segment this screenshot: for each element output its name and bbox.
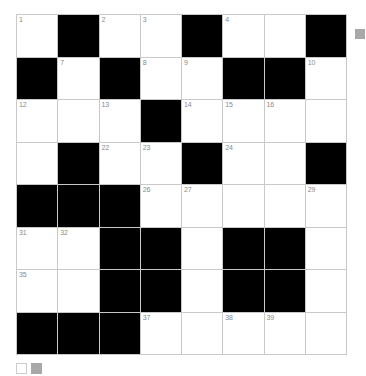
grid-cell-number: 39 [267,313,274,322]
grid-cell-block [223,270,263,312]
grid-cell-open[interactable] [182,270,222,312]
grid-cell-block [58,185,98,227]
grid-cell-block [265,58,305,100]
grid-cell-number: 8 [143,58,147,67]
crossword-grid[interactable]: 1234789101213141516222324262729313235373… [16,14,347,355]
grid-cell-open[interactable]: 23 [141,143,181,185]
grid-cell-open[interactable] [306,270,346,312]
grid-cell-open[interactable]: 9 [182,58,222,100]
grid-cell-number: 4 [225,15,229,24]
grid-cell-open[interactable]: 13 [100,100,140,142]
grid-cell-open[interactable] [265,185,305,227]
grid-cell-block [58,15,98,57]
grid-cell-open[interactable] [223,185,263,227]
grid-cell-block [141,228,181,270]
grid-cell-number: 13 [102,100,109,109]
legend-filled-swatch[interactable] [31,363,42,374]
grid-cell-open[interactable]: 3 [141,15,181,57]
grid-cell-number: 29 [308,185,315,194]
grid-cell-open[interactable] [182,228,222,270]
grid-cell-block [182,143,222,185]
grid-cell-block [223,58,263,100]
grid-cell-open[interactable]: 12 [17,100,57,142]
grid-cell-number: 35 [19,270,26,279]
crossword-page: 1234789101213141516222324262729313235373… [0,0,366,376]
grid-cell-number: 26 [143,185,150,194]
grid-cell-open[interactable]: 14 [182,100,222,142]
grid-cell-open[interactable]: 8 [141,58,181,100]
grid-cell-open[interactable]: 38 [223,313,263,355]
grid-cell-number: 38 [225,313,232,322]
grid-cell-block [17,185,57,227]
grid-cell-open[interactable]: 26 [141,185,181,227]
grid-cell-number: 3 [143,15,147,24]
grid-cell-open[interactable]: 37 [141,313,181,355]
grid-cell-number: 10 [308,58,315,67]
grid-cell-block [265,228,305,270]
grid-cell-block [100,270,140,312]
grid-cell-open[interactable] [265,143,305,185]
grid-cell-open[interactable] [306,100,346,142]
grid-cell-open[interactable] [182,313,222,355]
grid-cell-number: 16 [267,100,274,109]
grid-cell-block [100,313,140,355]
grid-cell-block [223,228,263,270]
grid-cell-open[interactable]: 10 [306,58,346,100]
grid-cell-open[interactable]: 35 [17,270,57,312]
grid-cell-block [100,185,140,227]
legend [16,363,42,374]
grid-cell-block [265,270,305,312]
grid-cell-number: 15 [225,100,232,109]
grid-cell-open[interactable]: 32 [58,228,98,270]
grid-cell-block [141,270,181,312]
grid-cell-block [58,143,98,185]
grid-cell-block [306,143,346,185]
grid-cell-number: 27 [184,185,191,194]
grid-cell-open[interactable]: 4 [223,15,263,57]
grid-cell-open[interactable] [306,228,346,270]
grid-cell-number: 37 [143,313,150,322]
grid-cell-number: 23 [143,143,150,152]
top-right-gray-swatch[interactable] [355,29,365,39]
grid-cell-block [141,100,181,142]
grid-cell-block [100,58,140,100]
grid-cell-open[interactable]: 39 [265,313,305,355]
grid-cell-open[interactable]: 31 [17,228,57,270]
grid-cell-number: 14 [184,100,191,109]
grid-cell-number: 2 [102,15,106,24]
grid-cell-block [100,228,140,270]
grid-cell-open[interactable] [17,143,57,185]
grid-cell-number: 32 [60,228,67,237]
grid-cell-block [182,15,222,57]
grid-cell-block [306,15,346,57]
grid-cell-open[interactable]: 2 [100,15,140,57]
grid-cell-open[interactable]: 7 [58,58,98,100]
grid-cell-number: 22 [102,143,109,152]
grid-cell-open[interactable] [265,15,305,57]
grid-cell-number: 7 [60,58,64,67]
grid-cell-number: 31 [19,228,26,237]
legend-empty-swatch[interactable] [16,363,27,374]
grid-cell-block [58,313,98,355]
grid-cell-open[interactable]: 24 [223,143,263,185]
grid-cell-open[interactable] [306,313,346,355]
grid-cell-open[interactable]: 1 [17,15,57,57]
grid-cell-number: 12 [19,100,26,109]
grid-cell-open[interactable]: 22 [100,143,140,185]
grid-cell-block [17,313,57,355]
grid-cell-block [17,58,57,100]
grid-cell-open[interactable]: 29 [306,185,346,227]
grid-cell-open[interactable]: 27 [182,185,222,227]
grid-cell-number: 1 [19,15,23,24]
grid-cell-open[interactable]: 15 [223,100,263,142]
grid-cell-open[interactable] [58,100,98,142]
grid-cell-open[interactable]: 16 [265,100,305,142]
grid-cell-number: 9 [184,58,188,67]
grid-cell-number: 24 [225,143,232,152]
grid-cell-open[interactable] [58,270,98,312]
